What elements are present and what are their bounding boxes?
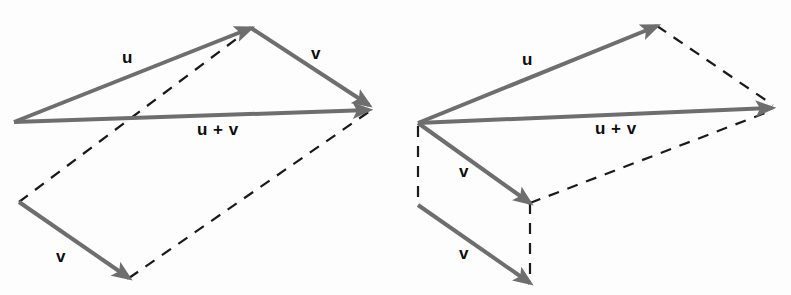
label-v-upper-right: v: [459, 162, 469, 181]
vector-addition-figure: u v u + v v u u + v v: [0, 0, 791, 295]
right-v-lower-arrow: [418, 205, 530, 283]
right-u-arrow: [418, 26, 657, 123]
triangle-rule-diagram: u u + v v v: [418, 26, 773, 284]
right-vector-arrows: [418, 26, 772, 283]
label-v-lower-right: v: [459, 244, 469, 263]
right-dash-diagonal-line: [530, 110, 773, 203]
parallelogram-rule-diagram: u v u + v v: [14, 28, 370, 278]
right-vector-labels: u u + v v v: [459, 50, 637, 263]
left-v-bottom-arrow: [19, 202, 129, 278]
left-v-top-arrow: [251, 28, 369, 105]
left-dash-lower-right-line: [129, 111, 370, 278]
left-u-arrow: [14, 28, 251, 122]
label-v-bottom-left: v: [56, 247, 66, 266]
label-u-plus-v-left: u + v: [197, 120, 239, 139]
left-vector-labels: u v u + v v: [56, 44, 321, 266]
label-u-left: u: [122, 48, 133, 67]
label-u-right: u: [522, 50, 533, 69]
right-v-upper-arrow: [418, 123, 530, 203]
right-dashed-lines: [418, 26, 773, 284]
left-sum-arrow: [14, 110, 369, 122]
vector-diagram-canvas: u v u + v v u u + v v: [0, 0, 791, 295]
label-v-top-left: v: [311, 44, 321, 63]
right-dash-top-line: [657, 26, 773, 105]
left-vector-arrows: [14, 28, 369, 278]
label-u-plus-v-right: u + v: [595, 119, 637, 138]
